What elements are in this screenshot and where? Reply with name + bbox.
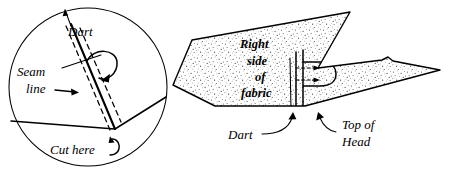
fabric-label-line-4: fabric [241, 86, 272, 100]
figure-root: Dart Seam line Cut here [0, 0, 451, 176]
dart-leader-curve [262, 118, 292, 134]
fabric-piece-panel: Right side of fabric Dart Top of Head [173, 12, 440, 149]
fabric-edge-left [11, 121, 115, 129]
dart-stitch-line-right [80, 28, 121, 122]
head-label-line-1: Top of [342, 117, 377, 132]
head-label-line-2: Head [341, 134, 371, 149]
dart-diagram-svg: Dart Seam line Cut here [0, 0, 451, 176]
circle-detail-panel: Dart Seam line Cut here [9, 8, 167, 166]
fabric-outline [173, 12, 440, 106]
fabric-label-line-2: side [246, 54, 268, 68]
dart-stitch-line-left [66, 26, 110, 130]
cut-here-label: Cut here [50, 142, 95, 157]
fabric-label-line-1: Right [239, 37, 269, 51]
dart-leader-arrowhead [288, 112, 296, 120]
seam-label-line-2: line [26, 81, 46, 96]
fabric-dart-label: Dart [227, 127, 253, 142]
seam-line-pointer-head [71, 89, 79, 96]
fabric-edge-right [115, 97, 166, 129]
head-leader-curve [320, 118, 336, 132]
fabric-label-line-3: of [255, 70, 267, 84]
circle-dart-label: Dart [67, 24, 93, 39]
dart-apex-arrowhead [63, 9, 69, 16]
seam-label-line-1: Seam [17, 64, 45, 79]
